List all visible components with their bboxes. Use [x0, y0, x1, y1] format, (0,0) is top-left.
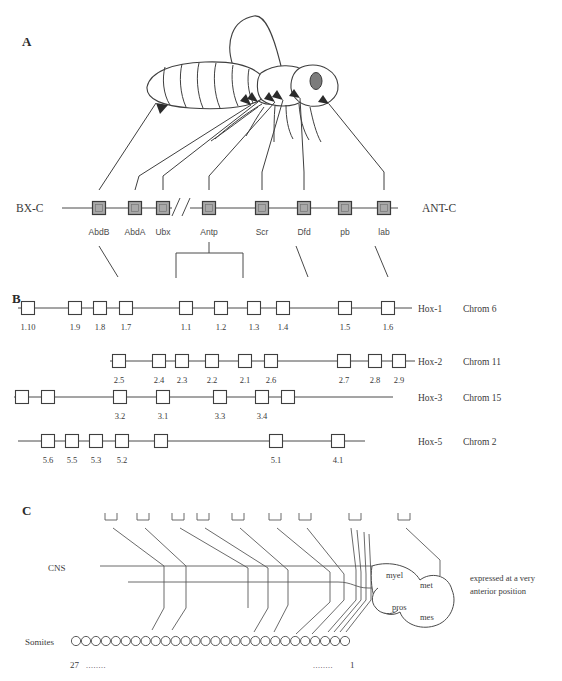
somite-circle: [231, 636, 240, 645]
expression-bracket-3: [197, 513, 209, 520]
panel-c-brackets: [105, 513, 410, 520]
somite-circle: [131, 636, 140, 645]
panel-b-hox-clusters: 1.101.91.81.71.11.21.31.41.51.6Hox-1Chro…: [14, 302, 502, 466]
figure-root: A B C: [0, 0, 562, 681]
panel-letter-c: C: [22, 503, 31, 518]
somite-circle: [271, 636, 280, 645]
expression-bracket-1: [137, 513, 149, 520]
somite-circle: [161, 636, 170, 645]
hox-unlabeled-box-hox-3-0: [16, 391, 29, 404]
chromosome-label-hox-2: Chrom 11: [463, 357, 501, 367]
figure-canvas: A B C: [0, 0, 562, 681]
hox-gene-label-5.3: 5.3: [91, 455, 102, 465]
hox-gene-box-2.3: [176, 355, 189, 368]
gene-box-pb: [339, 202, 352, 215]
hox-gene-box-1.7: [120, 302, 133, 315]
hox-row-hox-5: 5.65.55.35.25.14.1Hox-5Chrom 2: [18, 435, 497, 466]
gene-label-ubx: Ubx: [155, 227, 171, 237]
cns-label: CNS: [48, 563, 66, 573]
hox-unlabeled-box-hox-5-0: [155, 435, 168, 448]
brain-vesicles: [371, 564, 454, 628]
somite-circle: [311, 636, 320, 645]
mark-abdb: [99, 246, 118, 277]
brain-label-pros: pros: [392, 602, 407, 612]
chromosome-label-hox-1: Chrom 6: [463, 304, 497, 314]
somite-circle: [171, 636, 180, 645]
panel-letter-a: A: [22, 34, 32, 49]
brain-label-myel: myel: [386, 570, 404, 580]
panel-letter-b: B: [12, 291, 21, 306]
panel-a-gene-names: AbdBAbdAUbxAntpScrDfdpblab: [89, 227, 390, 237]
hox-gene-box-1.8: [94, 302, 107, 315]
gene-box-abdb: [93, 202, 106, 215]
hox-gene-label-3.1: 3.1: [158, 411, 169, 421]
panel-a-gene-cluster: BX-C ANT-C AbdBAbdAUbxAntpScrDfdpblab: [16, 198, 456, 278]
somite-circle: [320, 636, 329, 645]
gene-label-scr: Scr: [256, 227, 269, 237]
hox-gene-label-5.2: 5.2: [117, 455, 128, 465]
hox-gene-box-5.6: [42, 435, 55, 448]
gene-box-dfd: [298, 202, 311, 215]
hox-gene-label-3.4: 3.4: [257, 411, 268, 421]
hox-gene-box-3.2: [114, 391, 127, 404]
chromosome-label-hox-3: Chrom 15: [463, 393, 502, 403]
hox-gene-label-1.2: 1.2: [216, 322, 227, 332]
somite-circle: [121, 636, 130, 645]
expression-bracket-4: [232, 513, 244, 520]
somite-circle: [281, 636, 290, 645]
bxc-label: BX-C: [16, 202, 44, 214]
hox-unlabeled-box-hox-3-1: [42, 391, 55, 404]
hox-gene-label-2.7: 2.7: [339, 375, 350, 385]
hox-gene-box-5.3: [90, 435, 103, 448]
hox-gene-box-2.8: [369, 355, 382, 368]
hox-gene-label-2.6: 2.6: [266, 375, 277, 385]
brain-label-met: met: [420, 580, 433, 590]
hox-gene-label-1.5: 1.5: [340, 322, 351, 332]
mark-dfd: [296, 246, 308, 277]
hox-gene-label-5.1: 5.1: [271, 455, 282, 465]
hox-gene-label-1.8: 1.8: [95, 322, 106, 332]
hox-gene-box-1.2: [215, 302, 228, 315]
hox-cluster-name-hox-3: Hox-3: [418, 393, 443, 403]
somite-circle: [221, 636, 230, 645]
expression-bracket-8: [398, 513, 410, 520]
brain-label-mes: mes: [420, 612, 434, 622]
somite-circle: [291, 636, 300, 645]
gene-box-antp: [203, 202, 216, 215]
hox-row-hox-1: 1.101.91.81.71.11.21.31.41.51.6Hox-1Chro…: [18, 302, 497, 333]
somite-circle: [301, 636, 310, 645]
hox-gene-box-2.2: [206, 355, 219, 368]
gene-box-ubx: [157, 202, 170, 215]
hox-gene-box-1.1: [180, 302, 193, 315]
somite-circle: [91, 636, 100, 645]
fly-eye: [310, 73, 322, 90]
hox-gene-label-2.9: 2.9: [394, 375, 405, 385]
hox-cluster-name-hox-1: Hox-1: [418, 304, 443, 314]
expression-bracket-5: [269, 513, 281, 520]
hox-row-hox-3: 3.23.13.33.4Hox-3Chrom 15: [14, 391, 502, 422]
expression-bracket-6: [299, 513, 311, 520]
somite-circle: [251, 636, 260, 645]
hox-gene-label-1.9: 1.9: [70, 322, 81, 332]
hox-gene-label-1.10: 1.10: [21, 322, 36, 332]
gene-label-pb: pb: [340, 227, 350, 237]
hox-gene-label-2.2: 2.2: [207, 375, 218, 385]
somite-circle: [181, 636, 190, 645]
somite-left-dots: ........: [86, 661, 106, 670]
break-slash-1: [172, 198, 180, 216]
hox-gene-label-2.5: 2.5: [114, 375, 125, 385]
somite-circle: [330, 636, 339, 645]
somite-start-number: 27: [70, 660, 80, 670]
antc-label: ANT-C: [422, 202, 456, 214]
somite-circle: [81, 636, 90, 645]
mark-lab: [375, 246, 388, 277]
expression-bracket-0: [105, 513, 117, 520]
fly-appendages: [211, 104, 321, 142]
hox-gene-box-1.3: [248, 302, 261, 315]
gene-label-dfd: Dfd: [297, 227, 311, 237]
hox-gene-label-2.4: 2.4: [154, 375, 165, 385]
gene-box-scr: [256, 202, 269, 215]
hox-gene-label-5.6: 5.6: [43, 455, 54, 465]
hox-gene-box-5.2: [116, 435, 129, 448]
hox-gene-label-5.5: 5.5: [67, 455, 78, 465]
